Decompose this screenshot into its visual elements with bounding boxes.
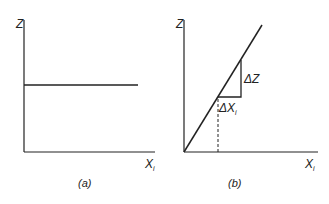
delta-z-label: ΔZ xyxy=(243,72,260,86)
panel-a-caption: (a) xyxy=(78,177,92,189)
delta-x-label: ΔXi xyxy=(218,101,237,116)
panel-b: ΔZ ΔXi Z Xi (b) xyxy=(175,17,318,189)
panel-b-diagonal-curve xyxy=(184,25,262,152)
panel-b-y-label: Z xyxy=(175,17,184,31)
panel-b-x-label: Xi xyxy=(304,157,315,172)
diagram-canvas: Z Xi (a) ΔZ ΔXi Z Xi (b) xyxy=(0,0,329,204)
panel-a-x-label: Xi xyxy=(144,157,155,172)
panel-a-y-label: Z xyxy=(15,17,24,31)
panel-b-caption: (b) xyxy=(228,177,242,189)
panel-a: Z Xi (a) xyxy=(15,17,155,189)
